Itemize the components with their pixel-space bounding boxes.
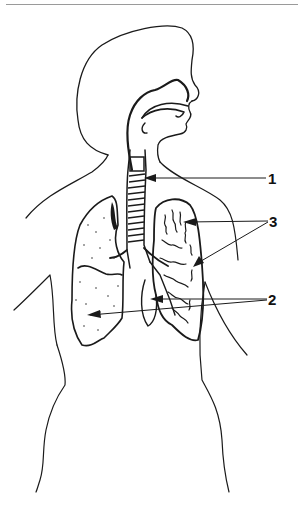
label-2: 2: [268, 292, 276, 307]
label-3: 3: [269, 214, 277, 229]
label-1: 1: [268, 171, 276, 186]
pointer-lines: [87, 174, 268, 318]
respiratory-diagram: [0, 0, 298, 513]
lung-left: [72, 196, 124, 346]
head-outline: [77, 26, 199, 170]
